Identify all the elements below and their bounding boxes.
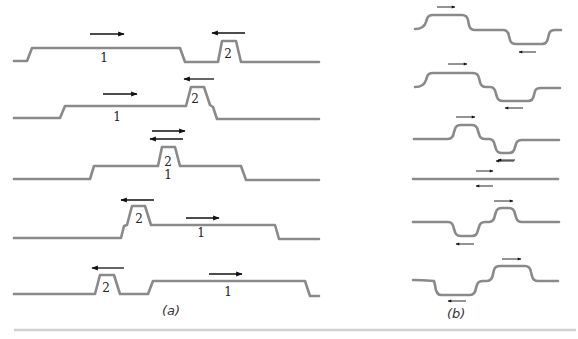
string-waveform xyxy=(14,87,319,119)
panel_b-row-1 xyxy=(415,7,561,52)
pulse-label: 2 xyxy=(135,212,143,226)
string-waveform xyxy=(413,266,558,295)
panel_a-row-2: 12 xyxy=(14,79,319,124)
pulse-label: 1 xyxy=(100,51,108,65)
panel_a-row-1: 12 xyxy=(14,33,319,65)
wave-pulse-diagram: 1212212121 (a) (b) xyxy=(0,0,578,339)
panel_a-row-3: 21 xyxy=(14,131,319,182)
panel_b-row-4 xyxy=(413,160,558,186)
pulse-label: 2 xyxy=(102,281,110,295)
pulse-label: 2 xyxy=(164,155,172,169)
panel-b-caption: (b) xyxy=(447,306,465,321)
string-waveform xyxy=(414,125,559,153)
panel-b-pulse-cancellation xyxy=(413,7,561,301)
string-waveform xyxy=(14,275,319,296)
panel_b-row-3 xyxy=(414,117,559,161)
panel_a-row-5: 21 xyxy=(14,268,319,299)
panel-a-pulse-collision: 1212212121 xyxy=(14,33,319,299)
panel_b-row-2 xyxy=(415,64,560,108)
string-waveform xyxy=(415,15,561,44)
panel_b-row-5 xyxy=(413,201,559,244)
panel-a-caption: (a) xyxy=(162,303,180,318)
pulse-label: 1 xyxy=(164,168,172,182)
string-waveform xyxy=(14,206,319,239)
panel_b-row-6 xyxy=(413,259,558,301)
pulse-label: 1 xyxy=(224,285,232,299)
string-waveform xyxy=(413,208,559,236)
pulse-label: 2 xyxy=(224,47,232,61)
pulse-label: 1 xyxy=(197,226,205,240)
pulse-label: 2 xyxy=(191,92,199,106)
pulse-label: 1 xyxy=(113,110,121,124)
panel_a-row-4: 21 xyxy=(14,200,319,240)
string-waveform xyxy=(415,73,560,101)
string-waveform xyxy=(14,41,319,62)
